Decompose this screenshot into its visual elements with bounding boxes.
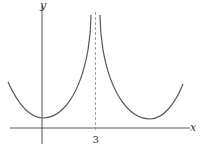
- right-branch-curve: [100, 15, 183, 119]
- x-tick-label: 3: [93, 134, 99, 145]
- left-branch-curve: [8, 15, 91, 118]
- x-axis-label: x: [190, 121, 197, 134]
- y-axis-label: y: [39, 0, 47, 12]
- graph-figure: y x 3: [0, 0, 200, 145]
